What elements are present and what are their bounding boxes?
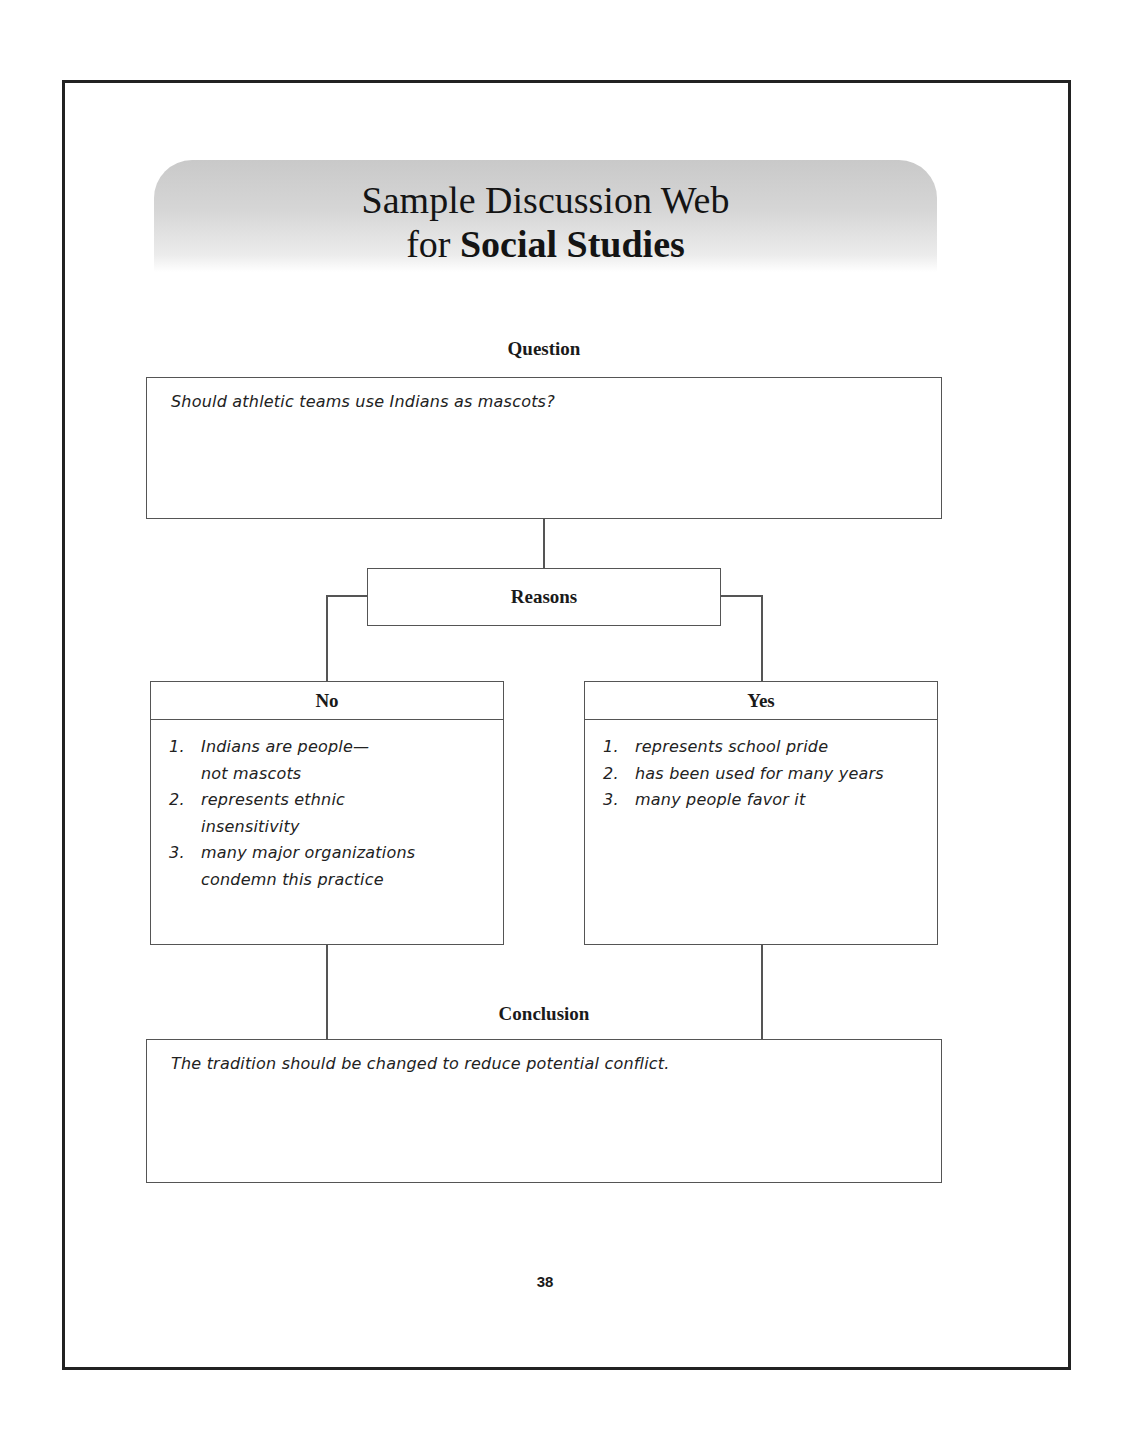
connector-reasons-yes-h [721, 595, 763, 597]
no-list: 1.Indians are people—not mascots 2.repre… [169, 734, 415, 893]
yes-header: Yes [585, 682, 937, 720]
page-number: 38 [0, 1273, 1090, 1290]
list-item: 1.represents school pride [603, 734, 884, 761]
list-item: 3.many people favor it [603, 787, 884, 814]
conclusion-label: Conclusion [146, 1003, 942, 1025]
title-line-2: for Social Studies [154, 222, 937, 266]
list-item: 3.many major organizationscondemn this p… [169, 840, 415, 893]
no-box: No 1.Indians are people—not mascots 2.re… [150, 681, 504, 945]
page-title: Sample Discussion Web for Social Studies [154, 178, 937, 266]
list-item: 2.represents ethnicinsensitivity [169, 787, 415, 840]
connector-reasons-no-h [326, 595, 368, 597]
title-line-1: Sample Discussion Web [154, 178, 937, 222]
connector-question-reasons [543, 519, 545, 569]
connector-reasons-yes-v [761, 595, 763, 682]
question-box: Should athletic teams use Indians as mas… [146, 377, 942, 519]
connector-yes-conclusion [761, 944, 763, 1040]
question-label: Question [146, 338, 942, 360]
connector-no-conclusion [326, 944, 328, 1040]
reasons-label: Reasons [368, 569, 720, 625]
yes-box: Yes 1.represents school pride 2.has been… [584, 681, 938, 945]
question-text: Should athletic teams use Indians as mas… [171, 392, 555, 411]
list-item: 2.has been used for many years [603, 761, 884, 788]
conclusion-box: The tradition should be changed to reduc… [146, 1039, 942, 1183]
no-header: No [151, 682, 503, 720]
reasons-box: Reasons [367, 568, 721, 626]
list-item: 1.Indians are people—not mascots [169, 734, 415, 787]
title-prefix: for [406, 223, 450, 265]
yes-list: 1.represents school pride 2.has been use… [603, 734, 884, 814]
title-subject: Social Studies [460, 223, 685, 265]
connector-reasons-no-v [326, 595, 328, 682]
conclusion-text: The tradition should be changed to reduc… [171, 1054, 670, 1073]
